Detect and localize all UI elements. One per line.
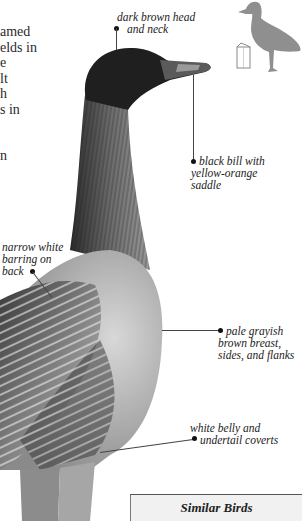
label-head-line: and neck	[117, 23, 195, 35]
label-head-line: dark brown head	[117, 11, 195, 23]
label-belly-line: undertail coverts	[190, 434, 278, 446]
body-text-line: e	[0, 55, 60, 71]
body-text: amed elds in e lt h s in n	[0, 24, 60, 164]
body-text-line	[0, 133, 60, 149]
body-text-line: elds in	[0, 40, 60, 56]
book-icon	[236, 42, 252, 70]
label-back-line: barring on	[2, 253, 63, 265]
label-belly-line: white belly and	[190, 422, 278, 434]
label-bill-line: yellow-orange	[191, 167, 265, 179]
label-bill-line: black bill with	[199, 155, 265, 167]
body-text-line: n	[0, 148, 60, 164]
label-breast-line: sides, and flanks	[218, 349, 294, 361]
body-text-line: s in	[0, 102, 60, 118]
pointer-dot	[218, 328, 223, 333]
label-belly: white belly and undertail coverts	[190, 422, 278, 446]
body-text-line: amed	[0, 24, 60, 40]
label-back-line: narrow white	[2, 241, 63, 253]
body-text-line: h	[0, 86, 60, 102]
body-text-line	[0, 117, 60, 133]
label-breast: pale grayish brown breast, sides, and fl…	[226, 325, 294, 361]
similar-birds-section: Similar Birds	[130, 494, 302, 521]
label-breast-line: pale grayish	[226, 325, 294, 337]
pointer-line	[162, 330, 220, 331]
label-head: dark brown head and neck	[117, 11, 195, 35]
body-text-line: lt	[0, 71, 60, 87]
label-bill: black bill with yellow-orange saddle	[199, 155, 265, 191]
label-breast-line: brown breast,	[218, 337, 294, 349]
similar-birds-title: Similar Birds	[131, 500, 302, 516]
label-bill-line: saddle	[191, 179, 265, 191]
pointer-line	[116, 28, 117, 50]
pointer-line	[193, 75, 194, 161]
pointer-dot	[191, 159, 196, 164]
